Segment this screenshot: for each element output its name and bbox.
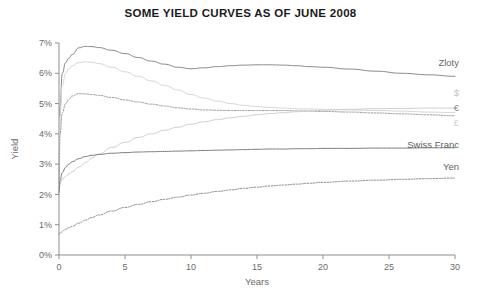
series-group <box>59 46 455 234</box>
x-tick-label: 10 <box>186 262 196 272</box>
y-axis-title: Yield <box>9 139 20 160</box>
x-tick-label: 0 <box>56 262 61 272</box>
series-label-pound: £ <box>454 117 460 128</box>
series-label-swiss-franc: Swiss Franc <box>407 139 459 150</box>
y-tick-label: 7% <box>39 38 52 48</box>
y-tick-label: 2% <box>39 190 52 200</box>
x-tick-label: 5 <box>122 262 127 272</box>
y-axis-group: 0%1%2%3%4%5%6%7% Yield <box>9 38 59 260</box>
x-tick-label: 30 <box>450 262 460 272</box>
y-tick-label: 3% <box>39 159 52 169</box>
x-axis-group: 051015202530 Years <box>56 255 460 287</box>
y-tick-label: 4% <box>39 129 52 139</box>
yield-curve-chart: SOME YIELD CURVES AS OF JUNE 2008 0%1%2%… <box>0 0 481 299</box>
y-tick-label: 5% <box>39 99 52 109</box>
y-tick-label: 0% <box>39 250 52 260</box>
series-label-yen: Yen <box>443 161 459 172</box>
series-label-dollar: $ <box>454 87 460 98</box>
x-tick-group: 051015202530 <box>56 255 460 272</box>
x-axis-title: Years <box>245 276 269 287</box>
y-tick-group: 0%1%2%3%4%5%6%7% <box>39 38 59 260</box>
y-tick-label: 1% <box>39 220 52 230</box>
series-label-zloty: Zloty <box>438 57 459 68</box>
series-line-euro <box>59 94 455 189</box>
chart-plot-area: 0%1%2%3%4%5%6%7% Yield 051015202530 Year… <box>0 0 481 299</box>
series-line-pound <box>59 62 455 186</box>
series-line-yen <box>59 178 455 234</box>
series-label-euro: € <box>454 102 460 113</box>
x-tick-label: 25 <box>384 262 394 272</box>
y-tick-label: 6% <box>39 68 52 78</box>
x-tick-label: 20 <box>318 262 328 272</box>
series-line-swiss-franc <box>59 148 455 193</box>
x-tick-label: 15 <box>252 262 262 272</box>
